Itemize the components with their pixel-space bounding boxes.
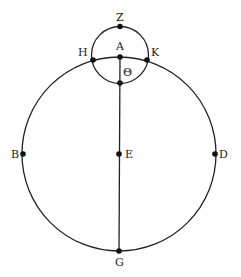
label-Theta: Θ: [123, 66, 132, 79]
label-B: B: [11, 148, 19, 161]
point-H: [90, 57, 96, 63]
point-D: [212, 151, 218, 157]
label-D: D: [219, 148, 228, 161]
label-H: H: [78, 46, 88, 59]
label-G: G: [115, 256, 124, 269]
point-Theta: [117, 80, 123, 86]
label-Z: Z: [116, 11, 124, 24]
label-A: A: [115, 40, 125, 53]
point-K: [144, 57, 150, 63]
point-A: [117, 54, 123, 60]
point-G: [116, 248, 122, 254]
point-B: [20, 151, 26, 157]
point-Z: [117, 24, 123, 30]
geometry-diagram: Z H A K Θ B E D G: [0, 0, 241, 277]
label-K: K: [151, 46, 160, 59]
point-E: [116, 151, 122, 157]
label-E: E: [125, 148, 133, 161]
